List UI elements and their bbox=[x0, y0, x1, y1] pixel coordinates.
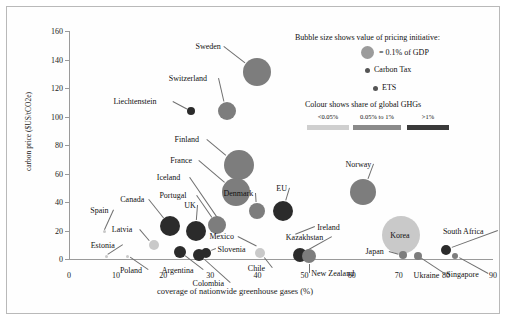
leader-line bbox=[255, 193, 257, 202]
legend-bin-swatch bbox=[307, 125, 349, 130]
leader-line bbox=[189, 177, 219, 221]
point-label-eu: EU bbox=[276, 184, 287, 193]
bubble-canada[interactable] bbox=[160, 216, 180, 236]
y-tick-label-wrap: 160 bbox=[37, 27, 63, 36]
bubble-new-zealand[interactable] bbox=[302, 249, 316, 263]
legend-colour-title: Colour shows share of global GHGs bbox=[305, 100, 421, 109]
point-label-norway: Norway bbox=[345, 160, 371, 169]
point-label-switzerland: Switzerland bbox=[169, 74, 207, 83]
point-label-iceland: Iceland bbox=[157, 173, 181, 182]
x-axis-label: coverage of nationwide greenhouse gases … bbox=[157, 286, 313, 296]
y-tick bbox=[65, 174, 69, 175]
leader-line bbox=[211, 248, 216, 251]
bubble-liechtenstein[interactable] bbox=[187, 107, 195, 115]
y-tick-label: 120 bbox=[43, 84, 63, 93]
point-label-south-africa: South Africa bbox=[443, 227, 484, 236]
leader-line bbox=[207, 139, 227, 156]
y-tick bbox=[65, 259, 69, 260]
legend-size-title: Bubble size shows value of pricing initi… bbox=[295, 33, 440, 42]
x-tick-label: 0 bbox=[57, 271, 81, 280]
y-tick-label-wrap: 20 bbox=[37, 227, 63, 236]
point-label-japan: Japan bbox=[365, 247, 383, 256]
y-tick bbox=[65, 145, 69, 146]
bubble-sweden[interactable] bbox=[243, 58, 271, 86]
point-label-chile: Chile bbox=[248, 264, 265, 273]
leader-line bbox=[198, 160, 225, 183]
bubble-slovenia[interactable] bbox=[201, 248, 211, 258]
point-label-mexico: Mexico bbox=[209, 232, 233, 241]
point-label-kazakhstan: Kazakhstan bbox=[286, 233, 323, 242]
chart-legend: Bubble size shows value of pricing initi… bbox=[295, 33, 495, 139]
legend-ets-label: ETS bbox=[382, 83, 396, 92]
legend-gdp-bubble bbox=[361, 46, 374, 59]
legend-bin-swatch bbox=[353, 125, 401, 130]
chart-frame: 020406080100120140160 010203040506070809… bbox=[6, 6, 500, 314]
y-tick-label-wrap: 60 bbox=[37, 170, 63, 179]
bubble-finland[interactable] bbox=[224, 150, 254, 180]
point-label-new-zealand: New Zealand bbox=[311, 269, 354, 278]
bubble-japan[interactable] bbox=[399, 251, 407, 259]
point-label-ukraine: Ukraine bbox=[414, 271, 440, 280]
legend-carbon-tax-label: Carbon Tax bbox=[374, 65, 411, 74]
chart-screenshot: 020406080100120140160 010203040506070809… bbox=[0, 0, 507, 334]
leader-line bbox=[196, 204, 198, 219]
legend-carbon-tax-dot bbox=[365, 68, 370, 73]
y-tick-label-wrap: 120 bbox=[37, 84, 63, 93]
bubble-portugal[interactable] bbox=[208, 216, 226, 234]
point-label-ireland: Ireland bbox=[317, 223, 340, 232]
point-label-singapore: Singapore bbox=[446, 270, 478, 279]
leader-line bbox=[148, 199, 164, 218]
y-tick-label: 20 bbox=[43, 227, 63, 236]
bubble-latvia[interactable] bbox=[149, 240, 159, 250]
point-label-portugal: Portugal bbox=[159, 191, 186, 200]
point-label-liechtenstein: Liechtenstein bbox=[113, 97, 156, 106]
bubble-norway[interactable] bbox=[350, 179, 376, 205]
legend-bin-swatch bbox=[407, 125, 449, 130]
point-label-slovenia: Slovenia bbox=[218, 245, 246, 254]
y-axis-line bbox=[69, 31, 70, 260]
point-label-finland: Finland bbox=[175, 135, 199, 144]
y-tick-label: 100 bbox=[43, 113, 63, 122]
legend-bin-label: 0.05% to 1% bbox=[353, 113, 401, 120]
bubble-estonia[interactable] bbox=[105, 255, 108, 258]
y-tick-label-wrap: 80 bbox=[37, 141, 63, 150]
y-axis-label: carbon price ($US/tCO2e) bbox=[24, 57, 33, 207]
y-tick-label-wrap: 140 bbox=[37, 56, 63, 65]
point-label-colombia: Colombia bbox=[193, 279, 225, 288]
y-tick-label-wrap: 0 bbox=[37, 255, 63, 264]
point-label-denmark: Denmark bbox=[223, 189, 253, 198]
bubble-south-africa[interactable] bbox=[441, 245, 451, 255]
leader-line bbox=[172, 101, 187, 110]
legend-bin-label: >1% bbox=[407, 113, 449, 120]
y-tick bbox=[65, 231, 69, 232]
bubble-uk[interactable] bbox=[186, 221, 206, 241]
point-label-canada: Canada bbox=[120, 195, 144, 204]
legend-gdp-label: = 0.1% of GDP bbox=[379, 48, 429, 57]
y-tick-label-wrap: 40 bbox=[37, 198, 63, 207]
x-tick-label: 70 bbox=[387, 271, 411, 280]
leader-line bbox=[218, 78, 224, 101]
y-tick-label: 160 bbox=[43, 27, 63, 36]
y-tick-label-wrap: 100 bbox=[37, 113, 63, 122]
point-label-spain: Spain bbox=[90, 206, 108, 215]
y-tick bbox=[65, 117, 69, 118]
leader-line bbox=[139, 229, 149, 241]
y-tick bbox=[65, 88, 69, 89]
y-tick-label: 80 bbox=[43, 141, 63, 150]
bubble-spain[interactable] bbox=[103, 230, 106, 233]
bubble-eu[interactable] bbox=[273, 201, 293, 221]
point-label-uk: UK bbox=[184, 201, 196, 210]
legend-bin-label: <0.05% bbox=[307, 113, 349, 120]
point-label-france: France bbox=[170, 156, 192, 165]
bubble-switzerland[interactable] bbox=[218, 102, 236, 120]
y-tick-label: 0 bbox=[43, 255, 63, 264]
point-label-estonia: Estonia bbox=[91, 241, 115, 250]
bubble-denmark[interactable] bbox=[249, 203, 265, 219]
point-label-sweden: Sweden bbox=[195, 42, 220, 51]
y-tick-label: 140 bbox=[43, 56, 63, 65]
point-label-latvia: Latvia bbox=[112, 225, 132, 234]
legend-ets-dot bbox=[373, 86, 378, 91]
y-tick bbox=[65, 202, 69, 203]
bubble-ukraine[interactable] bbox=[414, 252, 422, 260]
point-label-argentina: Argentina bbox=[162, 266, 194, 275]
